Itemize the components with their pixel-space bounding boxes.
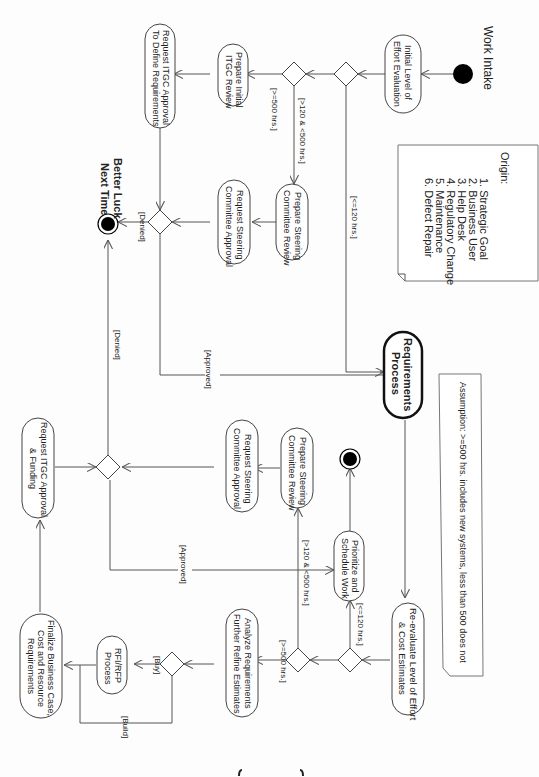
svg-text:Cost and Resource: Cost and Resource	[36, 630, 46, 707]
svg-text:Initial Level of: Initial Level of	[403, 45, 413, 101]
svg-text:Committee Review: Committee Review	[282, 190, 292, 266]
activity-req-itgc-funding: Request ITGC Approval & Funding	[22, 418, 54, 518]
svg-text:[Denied]: [Denied]	[138, 212, 147, 242]
decision-4	[338, 648, 362, 672]
start-label: Work Intake	[481, 26, 495, 90]
svg-text:Requirements: Requirements	[26, 638, 36, 695]
decision-5	[286, 648, 310, 672]
origin-note: Origin: 1. Strategic Goal 2. Business Us…	[398, 145, 538, 285]
activity-analyze: Analyze Requirements Further Refine Esti…	[226, 609, 258, 717]
svg-text:Process: Process	[103, 652, 113, 685]
decision-2	[282, 62, 306, 86]
svg-text:Committee Approval: Committee Approval	[224, 186, 234, 267]
svg-text:Assumption: >=500 hrs. include: Assumption: >=500 hrs. includes new syst…	[458, 382, 468, 663]
svg-text:Prepare Steering: Prepare Steering	[293, 192, 303, 260]
svg-text:Prioritize and: Prioritize and	[350, 540, 360, 593]
svg-text:[<=120 hrs.]: [<=120 hrs.]	[356, 603, 365, 646]
svg-text:Committee Approval: Committee Approval	[232, 428, 242, 509]
svg-text:[>120 & <500 hrs.]: [>120 & <500 hrs.]	[298, 98, 307, 164]
svg-text:Schedule Work: Schedule Work	[340, 538, 350, 599]
svg-text:Analyze Requirements: Analyze Requirements	[243, 618, 253, 709]
svg-text:Re-evaluate Level of Effort: Re-evaluate Level of Effort	[408, 608, 419, 721]
svg-text:[Approved]: [Approved]	[204, 350, 213, 389]
svg-text:Committee Review: Committee Review	[287, 435, 297, 511]
end-node-better-luck: Better Luck Next Time	[98, 158, 124, 234]
decision-nodes	[96, 62, 362, 676]
svg-text:6. Defect Repair: 6. Defect Repair	[423, 178, 435, 258]
svg-text:Origin:: Origin:	[499, 152, 511, 184]
svg-text:Process: Process	[390, 352, 402, 395]
end-label-line2: Next Time	[99, 163, 111, 215]
end-node-scheduled	[340, 449, 360, 469]
svg-text:To Define Requirements: To Define Requirements	[151, 30, 161, 127]
svg-text:Request ITGC Approval: Request ITGC Approval	[161, 30, 171, 125]
svg-text:[<=120 hrs.]: [<=120 hrs.]	[350, 196, 359, 239]
svg-text:[Build]: [Build]	[121, 716, 130, 738]
activity-prep-steering-2: Prepare Steering Committee Review	[281, 428, 313, 511]
activity-reevaluate: Re-evaluate Level of Effort & Cost Estim…	[392, 603, 424, 721]
activity-prep-steering-1: Prepare Steering Committee Review	[276, 184, 308, 266]
svg-text:[>=500 hrs.]: [>=500 hrs.]	[270, 88, 279, 131]
end-label-line1: Better Luck	[112, 158, 124, 219]
svg-text:[>120 & <500 hrs.]: [>120 & <500 hrs.]	[302, 540, 311, 606]
svg-text:[Buy]: [Buy]	[153, 656, 162, 674]
svg-text:Request Steering: Request Steering	[235, 190, 245, 260]
svg-text:Prepare Steering: Prepare Steering	[298, 437, 308, 505]
decision-1	[334, 62, 358, 86]
activity-requirements-process: Requirements Process	[384, 332, 422, 418]
assumption-note: Assumption: >=500 hrs. includes new syst…	[439, 374, 483, 676]
svg-text:RFI/RFP: RFI/RFP	[113, 648, 123, 683]
activity-diagram: Work Intake Better Luck Next Time Initia…	[0, 0, 539, 777]
activity-req-steering-1: Request Steering Committee Approval	[218, 180, 250, 267]
decision-6	[96, 455, 120, 479]
decision-7	[160, 652, 184, 676]
svg-text:Requirements: Requirements	[402, 338, 414, 411]
activity-rfi-rfp: RFI/RFP Process	[97, 636, 127, 694]
svg-text:Finalize Business Case,: Finalize Business Case,	[46, 620, 56, 716]
activity-req-itgc: Request ITGC Approval To Define Requirem…	[145, 24, 175, 128]
svg-text:Request ITGC Approval: Request ITGC Approval	[39, 422, 49, 517]
svg-text:& Funding: & Funding	[28, 448, 38, 489]
svg-text:[Approved]: [Approved]	[179, 545, 188, 584]
diagram-svg: Work Intake Better Luck Next Time Initia…	[0, 0, 539, 777]
activity-prep-itgc: Prepare Initial ITGC Review	[218, 44, 248, 109]
svg-text:[Denied]: [Denied]	[113, 330, 122, 360]
activity-prioritize: Prioritize and Schedule Work	[334, 531, 364, 601]
decision-3	[148, 210, 172, 234]
activity-initial-eval: Initial Level of Effort Evaluation	[385, 35, 421, 113]
start-node: Work Intake	[453, 26, 495, 90]
svg-text:& Cost Estimates: & Cost Estimates	[397, 622, 408, 695]
svg-text:Prepare Initial: Prepare Initial	[234, 52, 244, 108]
svg-text:[>=500 hrs.]: [>=500 hrs.]	[279, 640, 288, 683]
svg-text:ITGC Review: ITGC Review	[224, 55, 234, 109]
svg-text:Further Refine Estimates: Further Refine Estimates	[232, 614, 242, 714]
svg-text:Effort Evaluation: Effort Evaluation	[392, 41, 402, 107]
activity-req-steering-2: Request Steering Committee Approval	[226, 420, 258, 512]
activity-finalize: Finalize Business Case, Cost and Resourc…	[20, 614, 62, 718]
page-mark	[239, 770, 303, 776]
svg-text:Request Steering: Request Steering	[243, 434, 253, 504]
